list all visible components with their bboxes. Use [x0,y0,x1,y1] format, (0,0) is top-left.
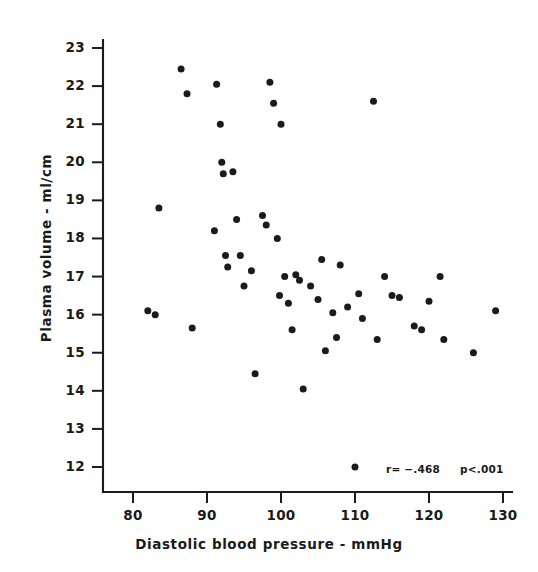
data-point [492,307,499,314]
data-point [281,273,288,280]
data-point [178,65,185,72]
x-tick-label-90: 90 [184,507,230,523]
data-point [318,256,325,263]
scatter-plot-figure: 121314151617181920212223 809010011012013… [0,0,538,572]
data-point [237,252,244,259]
data-point [352,464,359,471]
data-point [263,222,270,229]
data-point [213,81,220,88]
data-point [278,121,285,128]
data-point [426,298,433,305]
data-point [329,309,336,316]
y-tick-label-12: 12 [45,458,85,474]
data-point [374,336,381,343]
y-tick-label-22: 22 [45,77,85,93]
y-tick-label-14: 14 [45,382,85,398]
correlation-annotation: r= −.468 [386,463,440,475]
data-point [274,235,281,242]
data-point [315,296,322,303]
data-point [259,212,266,219]
data-point [229,168,236,175]
data-point [144,307,151,314]
data-point [396,294,403,301]
data-point [285,300,292,307]
data-point [344,304,351,311]
data-point [217,121,224,128]
data-point [418,326,425,333]
data-point [276,292,283,299]
x-tick-label-80: 80 [110,507,156,523]
x-axis-title: Diastolic blood pressure - mmHg [0,536,538,552]
data-point [152,311,159,318]
data-point [222,252,229,259]
data-point [322,347,329,354]
data-point [359,315,366,322]
data-point [220,170,227,177]
data-point [296,277,303,284]
data-point [470,349,477,356]
data-point [300,385,307,392]
data-point [370,98,377,105]
data-point [440,336,447,343]
data-point-group [144,65,499,470]
data-point [270,100,277,107]
y-tick-label-13: 13 [45,420,85,436]
data-point [437,273,444,280]
data-point [381,273,388,280]
data-point [211,227,218,234]
data-point [189,324,196,331]
data-point [155,204,162,211]
data-point [184,90,191,97]
data-point [224,264,231,271]
data-point [333,334,340,341]
x-tick-label-110: 110 [332,507,378,523]
data-point [233,216,240,223]
data-point [252,370,259,377]
data-point [389,292,396,299]
data-point [307,283,314,290]
x-tick-label-120: 120 [406,507,452,523]
data-point [218,159,225,166]
data-point [289,326,296,333]
data-point [355,290,362,297]
x-tick-label-100: 100 [258,507,304,523]
x-tick-label-130: 130 [480,507,526,523]
data-point [248,267,255,274]
data-point [241,283,248,290]
data-point [337,262,344,269]
pvalue-annotation: p<.001 [460,463,503,475]
y-tick-label-23: 23 [45,39,85,55]
data-point [411,323,418,330]
data-point [266,79,273,86]
y-axis-title: Plasma volume - ml/cm [38,118,54,378]
